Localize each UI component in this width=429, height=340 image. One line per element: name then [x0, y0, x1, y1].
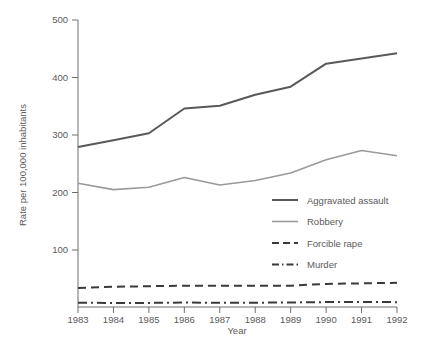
- legend-item-robbery[interactable]: Robbery: [272, 216, 343, 227]
- x-tick-label: 1989: [280, 314, 301, 325]
- x-tick: 1985: [138, 307, 159, 325]
- legend-label: Robbery: [307, 216, 343, 227]
- series-line-murder: [78, 302, 397, 303]
- x-tick: 1987: [209, 307, 230, 325]
- x-tick: 1983: [67, 307, 88, 325]
- legend-item-forcible-rape[interactable]: Forcible rape: [272, 238, 362, 249]
- y-axis-ticks: 100200300400500: [52, 14, 78, 255]
- y-axis-title: Rate per 100,000 inhabitants: [17, 104, 28, 226]
- x-tick: 1992: [386, 307, 407, 325]
- x-tick-label: 1987: [209, 314, 230, 325]
- x-tick-label: 1986: [174, 314, 195, 325]
- legend-label: Forcible rape: [307, 238, 362, 249]
- x-tick: 1984: [103, 307, 124, 325]
- x-tick: 1989: [280, 307, 301, 325]
- x-tick-label: 1984: [103, 314, 124, 325]
- x-tick: 1991: [351, 307, 372, 325]
- x-axis-title: Year: [227, 325, 246, 336]
- y-tick: 400: [52, 72, 78, 83]
- legend-label: Murder: [307, 259, 337, 270]
- series-line-aggravated-assault: [78, 53, 397, 147]
- x-tick-label: 1991: [351, 314, 372, 325]
- x-tick: 1986: [174, 307, 195, 325]
- y-tick-label: 300: [52, 129, 68, 140]
- legend-label: Aggravated assault: [307, 195, 389, 206]
- x-axis-ticks: 1983198419851986198719881989199019911992: [67, 307, 407, 325]
- y-tick: 100: [52, 244, 78, 255]
- series-line-robbery: [78, 151, 397, 190]
- x-tick-label: 1983: [67, 314, 88, 325]
- y-tick-label: 400: [52, 72, 68, 83]
- y-tick: 200: [52, 187, 78, 198]
- chart-legend: Aggravated assaultRobberyForcible rapeMu…: [272, 195, 389, 271]
- x-tick-label: 1992: [386, 314, 407, 325]
- x-tick-label: 1990: [316, 314, 337, 325]
- x-tick-label: 1985: [138, 314, 159, 325]
- y-tick-label: 200: [52, 187, 68, 198]
- data-series-group: [78, 53, 397, 303]
- crime-rate-line-chart: 100200300400500 198319841985198619871988…: [0, 0, 429, 340]
- y-tick-label: 100: [52, 244, 68, 255]
- chart-canvas: 100200300400500 198319841985198619871988…: [0, 0, 429, 340]
- x-tick: 1988: [245, 307, 266, 325]
- y-tick-label: 500: [52, 14, 68, 25]
- series-line-forcible-rape: [78, 283, 397, 288]
- x-tick-label: 1988: [245, 314, 266, 325]
- y-tick: 300: [52, 129, 78, 140]
- x-tick: 1990: [316, 307, 337, 325]
- legend-item-murder[interactable]: Murder: [272, 259, 337, 270]
- y-tick: 500: [52, 14, 78, 25]
- legend-item-aggravated-assault[interactable]: Aggravated assault: [272, 195, 389, 206]
